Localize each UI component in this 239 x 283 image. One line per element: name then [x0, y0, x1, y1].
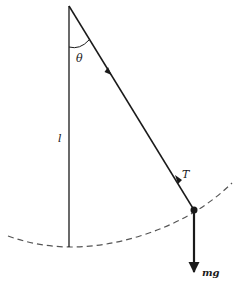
pendulum-string	[69, 6, 194, 210]
angle-arc	[69, 40, 89, 48]
tension-label: T	[182, 168, 191, 181]
string-arrow-down-icon	[105, 67, 112, 75]
swing-arc	[8, 183, 232, 247]
pendulum-diagram: θ l T mg	[0, 0, 239, 283]
weight-label: mg	[202, 267, 220, 278]
angle-label: θ	[76, 52, 83, 65]
length-label: l	[58, 132, 62, 145]
